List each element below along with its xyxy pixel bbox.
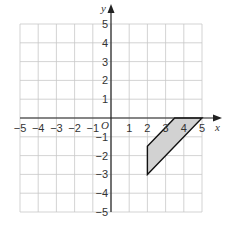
x-tick-label: 1 [126, 122, 132, 134]
y-tick-label: −3 [95, 168, 108, 180]
x-axis-label: x [214, 121, 220, 133]
x-tick-label: −3 [50, 122, 63, 134]
x-tick-label: −2 [68, 122, 81, 134]
x-tick-label: −5 [14, 122, 27, 134]
y-tick-label: 3 [102, 56, 108, 68]
y-axis-label: y [100, 2, 106, 14]
x-tick-label: 4 [181, 122, 187, 134]
y-axis-arrow-icon [108, 4, 115, 13]
x-tick-label: 3 [163, 122, 169, 134]
y-tick-label: −5 [95, 206, 108, 218]
shaded-parallelogram [147, 118, 202, 174]
y-tick-label: 2 [102, 74, 108, 86]
x-tick-label: −4 [32, 122, 45, 134]
origin-label: O [101, 119, 109, 131]
coordinate-grid: x y O −5−4−3−2−112345 54321−1−2−3−4−5 [0, 0, 231, 232]
x-tick-label: 5 [199, 122, 205, 134]
y-tick-label: −2 [95, 150, 108, 162]
y-tick-label: 5 [102, 18, 108, 30]
x-tick-label: 2 [144, 122, 150, 134]
y-tick-label: −1 [95, 131, 108, 143]
y-tick-label: 4 [102, 37, 108, 49]
y-tick-label: −4 [95, 187, 108, 199]
y-tick-label: 1 [102, 93, 108, 105]
